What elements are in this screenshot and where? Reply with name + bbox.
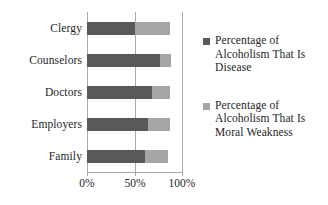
table-row bbox=[87, 86, 183, 99]
table-row bbox=[87, 54, 183, 67]
bar-segment-moral bbox=[135, 22, 170, 35]
legend-label-moral-weakness: Percentage of Alcoholism That Is Moral W… bbox=[215, 99, 328, 140]
table-row bbox=[87, 150, 183, 163]
table-row bbox=[87, 22, 183, 35]
legend-line: Percentage of bbox=[215, 34, 279, 46]
legend-item-disease[interactable]: Percentage of Alcoholism That Is Disease bbox=[203, 34, 328, 75]
category-axis-labels: Clergy Counselors Doctors Employers Fami… bbox=[0, 12, 84, 172]
plot-area: Clergy Counselors Doctors Employers Fami… bbox=[0, 0, 196, 205]
category-label-counselors: Counselors bbox=[29, 54, 84, 67]
plot-canvas bbox=[87, 12, 183, 172]
bar-segment-disease bbox=[87, 150, 145, 163]
bar-segment-moral bbox=[148, 118, 169, 131]
legend-item-moral-weakness[interactable]: Percentage of Alcoholism That Is Moral W… bbox=[203, 99, 328, 140]
stacked-bar-chart: Clergy Counselors Doctors Employers Fami… bbox=[0, 0, 328, 205]
category-label-doctors: Doctors bbox=[45, 86, 84, 99]
bar-segment-moral bbox=[145, 150, 168, 163]
bar-segment-moral bbox=[160, 54, 172, 67]
x-axis-label-100: 100% bbox=[169, 176, 196, 190]
legend-label-disease: Percentage of Alcoholism That Is Disease bbox=[215, 34, 328, 75]
bar-segment-disease bbox=[87, 118, 148, 131]
x-axis-label-50: 50% bbox=[124, 176, 145, 190]
legend-line: Alcoholism That bbox=[215, 48, 294, 60]
bar-segment-moral bbox=[152, 86, 169, 99]
legend-line: Percentage of bbox=[215, 99, 279, 111]
category-label-clergy: Clergy bbox=[50, 22, 84, 35]
chart-legend: Percentage of Alcoholism That Is Disease… bbox=[203, 34, 328, 163]
category-label-family: Family bbox=[49, 150, 84, 163]
table-row bbox=[87, 118, 183, 131]
legend-line: Weakness bbox=[246, 126, 293, 138]
bar-segment-disease bbox=[87, 54, 160, 67]
legend-swatch-icon-moral-weakness bbox=[203, 103, 210, 110]
bar-segment-disease bbox=[87, 86, 152, 99]
legend-line: Alcoholism That bbox=[215, 112, 294, 124]
category-label-employers: Employers bbox=[31, 118, 84, 131]
legend-swatch-icon-disease bbox=[203, 38, 210, 45]
x-axis-labels: 0% 50% 100% bbox=[87, 176, 197, 192]
x-axis-label-0: 0% bbox=[79, 176, 94, 190]
bar-rows bbox=[87, 12, 183, 172]
bar-segment-disease bbox=[87, 22, 135, 35]
